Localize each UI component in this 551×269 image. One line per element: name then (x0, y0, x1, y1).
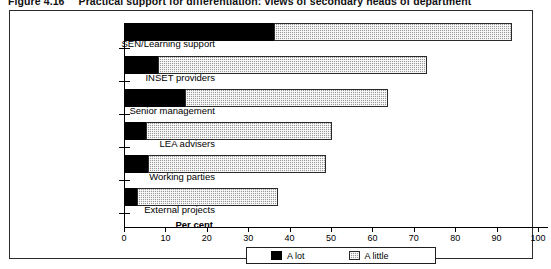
chart-legend: A lot A little (246, 247, 436, 264)
legend-item-a-little: A little (349, 251, 389, 261)
x-axis-tick-label: 10 (152, 233, 178, 243)
x-axis-tick-label: 50 (318, 233, 344, 243)
x-axis-tick-label: 100 (525, 233, 551, 243)
x-axis-tick (290, 228, 291, 232)
category-label-inset-providers: INSET providers (65, 73, 215, 83)
x-axis-tick (165, 228, 166, 232)
bar-segment-a-little (274, 23, 512, 41)
figure-caption: Figure 4.16Practical support for differe… (8, 0, 538, 9)
bar-segment-a-lot (125, 188, 137, 206)
x-axis-tick-label: 60 (359, 233, 385, 243)
bar-segment-a-lot (125, 56, 158, 74)
bar-segment-a-little (137, 188, 278, 206)
legend-label-a-lot: A lot (287, 251, 305, 261)
x-axis-tick (455, 228, 456, 232)
y-axis-tick (119, 180, 130, 181)
bar-segment-a-lot (125, 155, 148, 173)
bar-segment-a-little (185, 89, 388, 107)
category-label-lea-advisers: LEA advisers (65, 139, 215, 149)
x-axis-tick (538, 228, 539, 232)
x-axis-tick (248, 228, 249, 232)
legend-label-a-little: A little (365, 251, 389, 261)
legend-swatch-a-little-icon (349, 251, 360, 260)
y-axis-tick (119, 48, 130, 49)
y-axis-tick (119, 147, 130, 148)
y-axis-tick (119, 114, 130, 115)
x-axis-tick-label: 30 (235, 233, 261, 243)
bar-segment-a-lot (125, 122, 146, 140)
x-axis-tick-label: 80 (442, 233, 468, 243)
category-label-external-projects: External projects (65, 205, 215, 215)
bar-segment-a-lot (125, 23, 274, 41)
x-axis-tick (372, 228, 373, 232)
x-axis-tick-label: 90 (484, 233, 510, 243)
legend-item-a-lot: A lot (271, 251, 305, 261)
figure-number: Figure 4.16 (8, 0, 65, 7)
plot-area: SEN/Learning support INSET providers Sen… (115, 23, 539, 228)
bar-segment-a-little (158, 56, 427, 74)
legend-swatch-a-lot-icon (271, 251, 282, 260)
category-label-senior-management: Senior management (65, 106, 215, 116)
x-axis-tick (414, 228, 415, 232)
x-axis-tick-label: 40 (277, 233, 303, 243)
x-axis-tick (331, 228, 332, 232)
bar-segment-a-lot (125, 89, 185, 107)
figure-title: Practical support for differentiation: v… (79, 0, 472, 7)
category-label-working-parties: Working parties (65, 172, 215, 182)
bar-segment-a-little (146, 122, 332, 140)
x-axis-title: Per cent (58, 219, 213, 230)
x-axis-tick-label: 20 (194, 233, 220, 243)
y-axis-tick (119, 213, 130, 214)
x-axis-tick-label: 0 (111, 233, 137, 243)
y-axis-tick (119, 81, 130, 82)
x-axis-tick (207, 228, 208, 232)
x-axis-tick-label: 70 (401, 233, 427, 243)
bar-segment-a-little (148, 155, 326, 173)
x-axis-tick (497, 228, 498, 232)
x-axis-tick (124, 228, 125, 232)
figure-frame: SEN/Learning support INSET providers Sen… (9, 10, 533, 259)
